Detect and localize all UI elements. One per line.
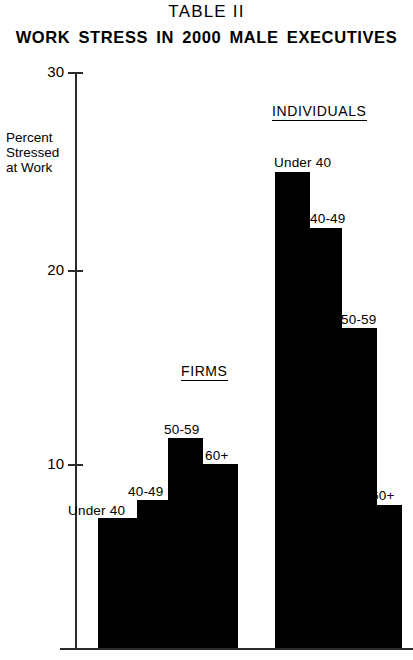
y-tick-20 [68, 270, 83, 272]
y-tick-10 [68, 464, 83, 466]
group-header-firms-text: FIRMS [181, 363, 228, 379]
group-header-firms: FIRMS [181, 363, 228, 381]
y-axis-title: Percent Stressed at Work [6, 130, 72, 175]
bar-label-firms-60-plus: 60+ [205, 448, 229, 463]
chart-figure: TABLE II WORK STRESS IN 2000 MALE EXECUT… [0, 0, 413, 660]
bar-firms-under-40 [98, 518, 137, 648]
bar-firms-50-59 [168, 438, 203, 648]
group-header-individuals: INDIVIDUALS [272, 103, 367, 121]
bar-label-firms-under-40: Under 40 [68, 503, 125, 518]
bar-label-individuals-50-59: 50-59 [341, 312, 377, 327]
group-header-individuals-text: INDIVIDUALS [272, 103, 367, 119]
y-tick-label-10: 10 [34, 455, 64, 472]
bar-label-firms-50-59: 50-59 [164, 422, 200, 437]
bar-label-individuals-under-40: Under 40 [274, 155, 331, 170]
y-axis-title-line-3: at Work [6, 160, 72, 175]
table-number-title: TABLE II [0, 2, 413, 22]
bar-individuals-40-49 [310, 228, 342, 648]
y-tick-30 [68, 72, 83, 74]
bar-individuals-under-40 [275, 172, 310, 648]
x-axis-line [60, 648, 413, 650]
y-tick-label-20: 20 [34, 261, 64, 278]
bar-label-firms-40-49: 40-49 [128, 484, 164, 499]
bar-label-individuals-60-plus: 60+ [371, 488, 395, 503]
y-tick-label-30: 30 [34, 63, 64, 80]
page-title: WORK STRESS IN 2000 MALE EXECUTIVES [0, 28, 413, 47]
bar-label-individuals-40-49: 40-49 [310, 211, 346, 226]
bar-firms-40-49 [137, 500, 168, 648]
group-header-individuals-underline [272, 120, 367, 121]
y-axis-title-line-2: Stressed [6, 145, 72, 160]
bar-individuals-60-plus [377, 505, 402, 648]
y-axis-line [75, 72, 77, 650]
group-header-firms-underline [181, 380, 228, 381]
bar-firms-60-plus [203, 464, 238, 648]
y-axis-title-line-1: Percent [6, 130, 72, 145]
